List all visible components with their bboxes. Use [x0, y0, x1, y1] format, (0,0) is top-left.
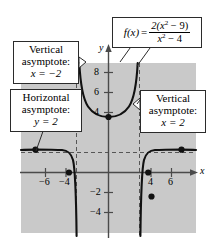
callout-ha-line3: y = 2	[14, 116, 78, 128]
callout-va-right-line2: asymptote:	[144, 105, 202, 117]
y-tick-label--2: −2	[90, 186, 101, 197]
callout-vertical-asymptote-right: Vertical asymptote: x = 2	[140, 90, 206, 133]
x-tick-label-4: 4	[148, 176, 153, 187]
x-tick-label--4: −4	[59, 176, 70, 187]
formula-equals: =	[141, 27, 147, 39]
x-axis-label: x	[200, 165, 204, 176]
formula-lhs: f(x)	[124, 27, 139, 39]
y-tick-label-4: 4	[94, 106, 99, 117]
point-x-intercept-right	[145, 169, 151, 175]
point-right-lower	[148, 193, 154, 199]
callout-va-left-line3: x = −2	[17, 68, 75, 80]
y-axis-arrow	[105, 44, 111, 52]
figure-container: x y −6 −4 4 6 8 6 4 −2 −4 Vertical asymp…	[0, 0, 219, 250]
y-tick-label-8: 8	[94, 66, 99, 77]
x-tick-label--6: −6	[39, 176, 50, 187]
callout-function-formula: f(x) = 2(x2 − 9) x2 − 4	[112, 17, 202, 48]
callout-vertical-asymptote-left: Vertical asymptote: x = −2	[13, 41, 79, 84]
y-tick-label--4: −4	[90, 206, 101, 217]
formula-numerator-base: 2(x	[151, 20, 164, 31]
formula-numerator-tail: − 9)	[168, 20, 188, 31]
point-right-asymptote-end	[178, 147, 184, 153]
callout-va-right-line3: x = 2	[144, 117, 202, 129]
callout-ha-line2: asymptote:	[14, 104, 78, 116]
point-x-intercept-left	[66, 169, 72, 175]
formula-fraction: 2(x2 − 9) x2 − 4	[149, 21, 190, 45]
x-tick-label-6: 6	[168, 176, 173, 187]
y-axis-label: y	[99, 42, 103, 53]
callout-horizontal-asymptote: Horizontal asymptote: y = 2	[10, 89, 82, 132]
point-minimum	[105, 114, 111, 120]
callout-va-left-line2: asymptote:	[17, 56, 75, 68]
formula-numerator: 2(x2 − 9)	[149, 21, 190, 32]
formula-denominator: x2 − 4	[149, 34, 190, 45]
formula-denominator-tail: − 4	[166, 33, 182, 44]
y-tick-label-6: 6	[94, 86, 99, 97]
